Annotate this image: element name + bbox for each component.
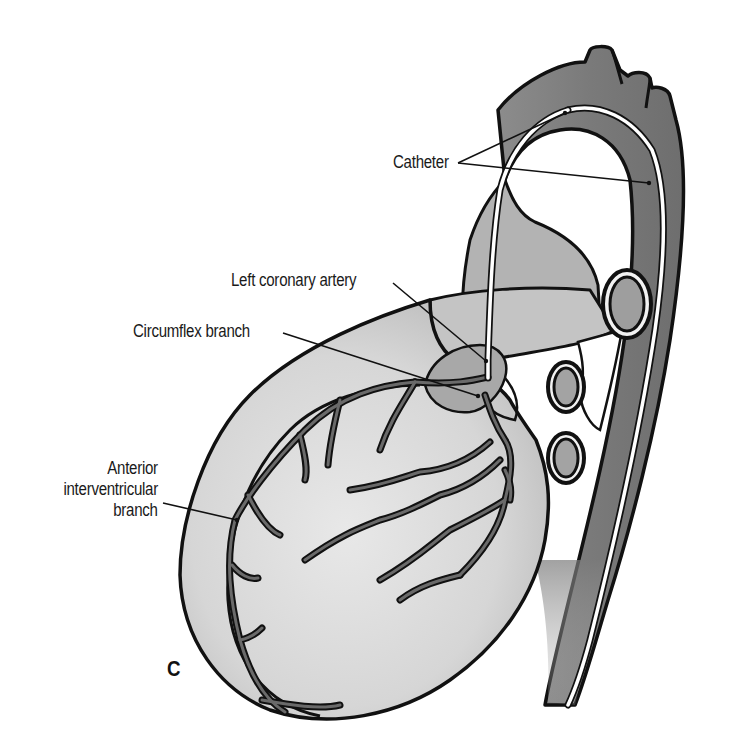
leader-catheter-lower: [458, 163, 649, 183]
vessel-ring-middle: [548, 362, 584, 412]
heart-catheter-illustration: [0, 0, 746, 742]
panel-letter: C: [167, 656, 181, 682]
label-anterior-interventricular-line2: interventricular: [63, 479, 158, 500]
label-anterior-interventricular-line3: branch: [114, 500, 158, 521]
vessel-ring-upper: [603, 270, 651, 338]
label-anterior-interventricular-line1: Anterior: [107, 458, 158, 479]
label-circumflex-branch: Circumflex branch: [133, 321, 250, 342]
vessel-ring-lower: [548, 433, 584, 483]
label-catheter: Catheter: [393, 152, 449, 173]
label-left-coronary-artery: Left coronary artery: [231, 270, 356, 291]
